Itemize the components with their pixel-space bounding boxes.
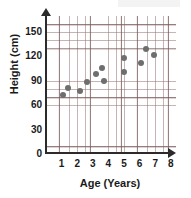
data-point	[151, 52, 157, 58]
data-point	[65, 85, 71, 91]
y-tick-label: 120	[0, 50, 42, 61]
y-axis-arrow-icon	[41, 8, 51, 16]
data-point	[77, 88, 83, 94]
y-tick-label: 60	[0, 99, 42, 110]
data-point	[121, 69, 127, 75]
top-edge-artifact	[118, 0, 180, 7]
data-point	[121, 55, 127, 61]
y-axis-line	[45, 14, 47, 154]
x-tick-label: 6	[132, 158, 148, 169]
data-point	[99, 65, 105, 71]
data-point	[143, 46, 149, 52]
x-tick-label: 4	[100, 158, 116, 169]
y-axis-tick-labels: 0306090120150	[0, 0, 42, 198]
data-point	[84, 79, 90, 85]
data-point	[101, 78, 107, 84]
data-point	[138, 60, 144, 66]
y-tick-label: 30	[0, 123, 42, 134]
scatter-chart: 0306090120150 12345678 Height (cm) Age (…	[0, 0, 191, 198]
y-tick-label: 0	[0, 148, 42, 159]
x-axis-line	[46, 152, 171, 154]
y-axis-title: Height (cm)	[8, 24, 20, 104]
y-tick-label: 150	[0, 26, 42, 37]
data-point	[60, 92, 66, 98]
x-tick-label: 1	[54, 158, 70, 169]
x-axis-title: Age (Years)	[40, 177, 180, 189]
x-tick-label: 5	[116, 158, 132, 169]
x-tick-label: 7	[147, 158, 163, 169]
x-tick-label: 8	[163, 158, 179, 169]
x-tick-label: 3	[85, 158, 101, 169]
x-tick-label: 2	[69, 158, 85, 169]
y-tick-label: 90	[0, 74, 42, 85]
data-point	[93, 71, 99, 77]
x-axis-arrow-icon	[168, 148, 176, 158]
